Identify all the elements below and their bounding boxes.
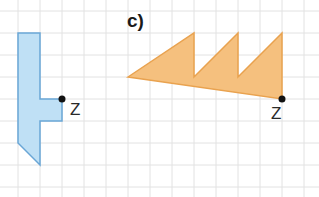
- diagram-svg: Z c) Z: [0, 0, 319, 197]
- rotation-center-label: Z: [271, 104, 281, 123]
- part-label: c): [127, 10, 144, 31]
- blue-shape: [18, 33, 62, 165]
- rotation-center-point: [59, 96, 66, 103]
- diagram-canvas: Z c) Z: [0, 0, 319, 197]
- orange-shape: [128, 33, 282, 99]
- rotation-center-label: Z: [70, 100, 80, 119]
- rotation-center-point: [279, 96, 286, 103]
